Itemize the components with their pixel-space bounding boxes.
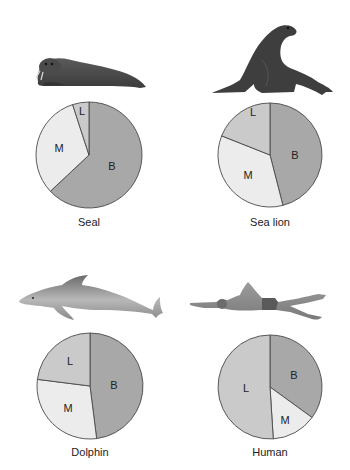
pie-seal: BML bbox=[36, 102, 142, 208]
slice-label-B: B bbox=[110, 379, 117, 391]
slice-label-B: B bbox=[290, 369, 297, 381]
slice-label-M: M bbox=[54, 142, 63, 154]
caption-dolphin: Dolphin bbox=[71, 446, 108, 458]
pie-charts: BMLBMLBMLBML bbox=[36, 102, 322, 439]
slice-label-B: B bbox=[291, 149, 298, 161]
pie-dolphin: BML bbox=[37, 333, 143, 439]
slice-label-L: L bbox=[67, 355, 73, 367]
caption-seal: Seal bbox=[78, 216, 100, 228]
sea-lion-illustration bbox=[212, 25, 333, 95]
dolphin-illustration bbox=[19, 275, 163, 320]
pie-slice-L bbox=[37, 333, 90, 386]
slice-label-B: B bbox=[108, 160, 115, 172]
slice-label-M: M bbox=[63, 402, 72, 414]
figure: BMLBMLBMLBML Seal Sea lion Dolphin Human bbox=[0, 0, 350, 470]
slice-label-L: L bbox=[243, 382, 249, 394]
slice-label-M: M bbox=[243, 169, 252, 181]
caption-human: Human bbox=[252, 446, 287, 458]
caption-sea-lion: Sea lion bbox=[250, 216, 290, 228]
slice-label-M: M bbox=[280, 414, 289, 426]
seal-illustration bbox=[36, 58, 146, 88]
human-swimmer-illustration bbox=[190, 282, 326, 320]
pie-human: BML bbox=[218, 335, 322, 439]
slice-label-L: L bbox=[79, 105, 85, 117]
slice-label-L: L bbox=[250, 106, 256, 118]
pie-sea-lion: BML bbox=[218, 103, 322, 207]
